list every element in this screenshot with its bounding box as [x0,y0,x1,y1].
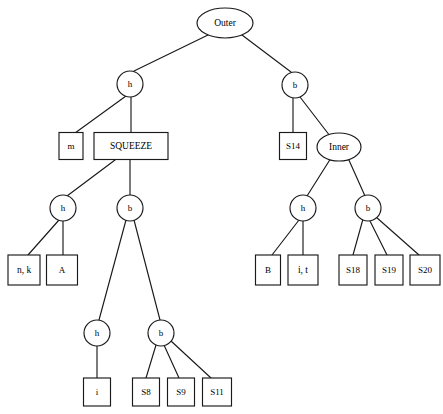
tree-node[interactable]: S18 [339,255,367,285]
tree-edge [75,96,126,133]
tree-node[interactable]: Inner [317,133,361,161]
tree-node[interactable]: n, k [8,255,40,285]
tree-node[interactable]: b [148,320,174,346]
tree-edge [134,220,160,320]
node-label: h [128,79,133,89]
tree-edge [28,220,59,255]
tree-edge [348,158,365,196]
tree-node[interactable]: S20 [410,255,440,285]
tree-node[interactable]: h [84,320,110,346]
tree-node[interactable]: m [59,133,83,160]
tree-node[interactable]: i [84,378,111,406]
tree-node[interactable]: S11 [203,378,232,406]
node-label: S8 [141,387,151,397]
tree-node[interactable]: i, t [288,255,318,285]
tree-edge [376,217,419,255]
tree-node[interactable]: Outer [197,8,253,38]
node-label: SQUEEZE [110,141,152,151]
node-label: b [366,203,371,213]
node-label: B [265,265,271,275]
node-label: b [128,203,133,213]
tree-node[interactable]: S19 [375,255,403,285]
node-label: A [59,265,66,275]
node-label: Outer [214,18,236,28]
tree-edge [300,97,330,136]
tree-node[interactable]: A [47,255,78,285]
node-label: S19 [382,265,397,275]
node-label: S11 [210,387,224,397]
node-label: S14 [286,141,301,151]
tree-edge [272,220,299,255]
tree-diagram: OuterhbmSQUEEZES14Innerhbhbn, kABi, tS18… [0,0,443,414]
tree-edge [370,221,387,255]
tree-node[interactable]: h [50,195,76,221]
node-label: S20 [418,265,433,275]
tree-node[interactable]: S9 [168,378,195,406]
node-label: S18 [346,265,361,275]
tree-edge [146,345,156,378]
tree-node[interactable]: b [117,195,143,221]
tree-node[interactable]: B [256,255,281,285]
tree-node[interactable]: b [282,72,308,98]
node-label: b [159,328,164,338]
node-label: m [67,141,74,151]
tree-edge [164,345,179,378]
tree-edge [67,160,115,196]
tree-edge [242,35,291,72]
tree-node[interactable]: h [117,71,143,97]
node-label: b [293,80,298,90]
node-label: i, t [298,265,308,275]
tree-node[interactable]: S8 [133,378,160,406]
node-label: S9 [176,387,186,397]
node-label: Inner [329,142,350,152]
node-label: h [61,203,66,213]
node-label: n, k [17,265,32,275]
tree-edge [134,35,208,71]
tree-edge [307,158,331,196]
tree-node[interactable]: S14 [280,133,307,160]
tree-node[interactable]: h [290,195,316,221]
diagram-canvas: OuterhbmSQUEEZES14Innerhbhbn, kABi, tS18… [0,0,443,414]
node-label: h [301,203,306,213]
tree-edge [99,220,126,320]
tree-node[interactable]: b [355,195,381,221]
tree-edge [353,219,363,255]
node-layer: OuterhbmSQUEEZES14Innerhbhbn, kABi, tS18… [8,8,440,406]
tree-node[interactable]: SQUEEZE [94,133,168,160]
node-label: h [95,328,100,338]
